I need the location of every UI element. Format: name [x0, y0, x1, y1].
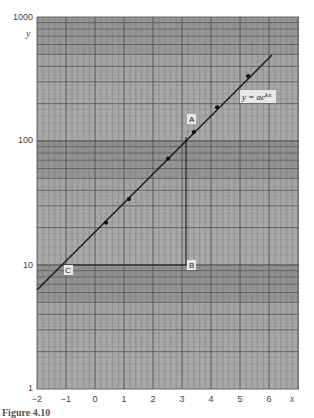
svg-text:4: 4: [208, 394, 213, 404]
y-axis-label: y: [25, 28, 31, 39]
svg-text:A: A: [189, 115, 195, 124]
svg-text:3: 3: [179, 394, 184, 404]
svg-text:6: 6: [266, 394, 271, 404]
svg-text:0: 0: [92, 394, 97, 404]
data-point: [192, 130, 196, 134]
equation-label: y = aekx: [240, 90, 276, 103]
svg-text:100: 100: [18, 135, 33, 145]
x-axis-label: x: [289, 393, 295, 404]
svg-text:2: 2: [150, 394, 155, 404]
svg-text:1: 1: [28, 383, 33, 393]
data-point: [215, 105, 219, 109]
label-a: A: [187, 114, 196, 124]
data-point: [166, 157, 170, 161]
data-point: [127, 197, 131, 201]
label-c: C: [64, 265, 73, 275]
svg-text:C: C: [65, 266, 71, 275]
plot-area: [37, 17, 299, 389]
svg-text:−1: −1: [61, 394, 71, 404]
label-b: B: [187, 260, 196, 270]
data-point: [104, 220, 108, 224]
svg-text:−2: −2: [32, 394, 42, 404]
data-point: [246, 74, 250, 78]
svg-text:5: 5: [237, 394, 242, 404]
svg-text:B: B: [189, 261, 194, 270]
figure-caption: Figure 4.10: [2, 407, 50, 418]
svg-text:1: 1: [121, 394, 126, 404]
svg-text:1000: 1000: [13, 12, 33, 22]
x-axis-ticks: −2−10123456: [32, 394, 272, 404]
svg-text:10: 10: [23, 260, 33, 270]
y-axis-ticks: 1000 100 10 1: [13, 12, 33, 393]
